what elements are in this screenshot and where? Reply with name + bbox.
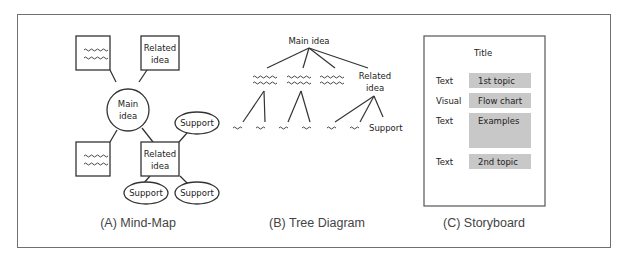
idea-box (76, 36, 110, 70)
support-label: Support (180, 188, 214, 198)
tree-related-line2: idea (366, 83, 384, 93)
connector (142, 128, 153, 142)
storyboard-row-label: Visual (436, 96, 461, 106)
related-label-line1: Related (144, 149, 176, 159)
diagram-canvas: Related idea Main idea Related idea Supp… (0, 0, 626, 257)
storyboard-row-content: 1st topic (478, 76, 515, 86)
tree-diagram-panel (243, 48, 383, 122)
tree-related-line1: Related (359, 71, 391, 81)
storyboard-title: Title (473, 48, 492, 58)
main-idea-line1: Main (118, 99, 138, 109)
caption-storyboard: (C) Storyboard (443, 216, 525, 230)
storyboard-row-content: 2nd topic (478, 157, 518, 167)
storyboard-row-content: Examples (478, 116, 520, 126)
connector (179, 133, 187, 142)
main-idea-circle (107, 89, 149, 131)
main-idea-line2: idea (119, 111, 137, 121)
related-label-line1: Related (144, 43, 176, 53)
caption-tree-diagram: (B) Tree Diagram (269, 216, 365, 230)
support-label: Support (180, 118, 214, 128)
support-label: Support (129, 188, 163, 198)
caption-mind-map: (A) Mind-Map (100, 216, 176, 230)
storyboard-row-label: Text (435, 116, 454, 126)
storyboard-row-label: Text (435, 157, 454, 167)
storyboard-row-label: Text (435, 76, 454, 86)
tree-root-label: Main idea (288, 36, 329, 46)
connector (139, 70, 147, 82)
idea-box (76, 142, 110, 176)
tree-leaf-support: Support (369, 123, 403, 133)
storyboard-row-content: Flow chart (478, 96, 523, 106)
connector (110, 70, 116, 82)
figure: Related idea Main idea Related idea Supp… (0, 0, 626, 257)
connector (110, 130, 117, 142)
related-label-line2: idea (151, 161, 169, 171)
related-label-line2: idea (151, 55, 169, 65)
